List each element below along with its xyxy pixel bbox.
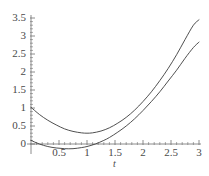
y-tick-label: 3: [21, 30, 27, 41]
x-tick-label: 2.5: [157, 147, 185, 158]
x-tick-label: 1: [73, 147, 101, 158]
x-tick-label: 1.5: [101, 147, 129, 158]
y-tick-label: 2.5: [12, 48, 26, 59]
y-tick-label: 0.5: [12, 120, 26, 131]
y-tick-label: 1.5: [12, 84, 26, 95]
y-tick-label: 1: [21, 102, 27, 113]
x-axis-label: t: [113, 159, 116, 169]
x-tick-label: 0.5: [45, 147, 73, 158]
x-tick-label: 3: [185, 147, 209, 158]
y-tick-label: 0: [21, 138, 27, 149]
y-tick-label: 3.5: [12, 12, 26, 23]
data-curves-group: [31, 20, 199, 149]
x-tick-label: 2: [129, 147, 157, 158]
data-curve-upper: [31, 20, 199, 133]
data-curve-lower: [31, 42, 199, 149]
axes-group: [27, 15, 201, 154]
y-tick-label: 2: [21, 66, 27, 77]
plot-figure: 00.511.522.533.5 0.511.522.53 t: [0, 0, 209, 176]
